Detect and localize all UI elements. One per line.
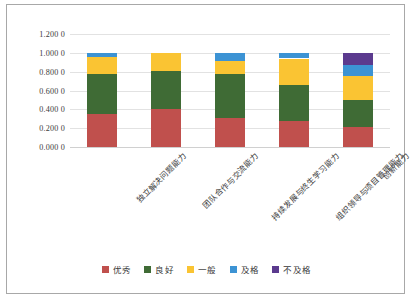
legend-label: 及格 [241, 263, 260, 275]
bar-segment[interactable] [343, 76, 373, 100]
legend-label: 优秀 [113, 263, 132, 275]
legend-swatch-icon [230, 266, 237, 273]
legend-item[interactable]: 良好 [144, 263, 174, 275]
bar-segment[interactable] [151, 53, 181, 71]
y-axis-tick-label: 0.200 0 [39, 124, 65, 133]
y-axis-tick-label: 0.800 0 [39, 67, 65, 76]
x-axis-tick-label: 团队合作与交流能力 [200, 150, 261, 211]
y-axis-tick-label: 1.000 0 [39, 48, 65, 57]
bar-column[interactable] [151, 34, 181, 147]
bar-column[interactable] [343, 34, 373, 147]
x-axis-tick-label: 持续发展与终生学习能力 [269, 150, 341, 222]
bar-segment[interactable] [215, 61, 245, 74]
bar-column[interactable] [87, 34, 117, 147]
chart-legend: 优秀良好一般及格不及格 [7, 263, 406, 275]
bar-segment[interactable] [343, 53, 373, 65]
bar-segment[interactable] [343, 100, 373, 127]
bar-stack [87, 53, 117, 147]
legend-item[interactable]: 一般 [187, 263, 217, 275]
bar-segment[interactable] [279, 53, 309, 59]
bar-segment[interactable] [215, 53, 245, 61]
bar-stack [343, 53, 373, 147]
legend-swatch-icon [187, 266, 194, 273]
bar-segment[interactable] [343, 65, 373, 77]
bar-segment[interactable] [279, 59, 309, 86]
y-axis-tick-label: 0.600 0 [39, 86, 65, 95]
legend-label: 良好 [155, 263, 174, 275]
bar-column[interactable] [215, 34, 245, 147]
bar-segment[interactable] [215, 74, 245, 118]
bar-segment[interactable] [215, 118, 245, 147]
bar-column[interactable] [279, 34, 309, 147]
y-axis-tick-label: 0.400 0 [39, 105, 65, 114]
legend-label: 不及格 [283, 263, 311, 275]
legend-swatch-icon [272, 266, 279, 273]
legend-item[interactable]: 不及格 [272, 263, 311, 275]
bar-segment[interactable] [87, 57, 117, 74]
x-axis: 独立解决问题能力团队合作与交流能力持续发展与终生学习能力组织领导与项目管理能力创… [70, 148, 390, 260]
bar-stack [151, 53, 181, 147]
x-axis-tick-label: 独立解决问题能力 [133, 150, 188, 205]
legend-item[interactable]: 优秀 [102, 263, 132, 275]
bar-segment[interactable] [151, 71, 181, 109]
bar-segment[interactable] [87, 114, 117, 147]
y-axis-tick-label: 1.200 0 [39, 30, 65, 39]
y-axis-tick-label: 0.000 0 [39, 143, 65, 152]
legend-item[interactable]: 及格 [230, 263, 260, 275]
bar-stack [279, 53, 309, 147]
bar-segment[interactable] [343, 127, 373, 147]
bar-segment[interactable] [87, 74, 117, 114]
bar-segment[interactable] [87, 53, 117, 57]
bar-segment[interactable] [151, 109, 181, 147]
plot-area [70, 34, 390, 147]
y-axis: 1.200 01.000 00.800 00.600 00.400 00.200… [17, 34, 65, 147]
legend-label: 一般 [198, 263, 217, 275]
bar-segment[interactable] [279, 121, 309, 147]
bar-stack [215, 53, 245, 147]
bar-segment[interactable] [279, 85, 309, 121]
chart-frame: 1.200 01.000 00.800 00.600 00.400 00.200… [6, 4, 405, 294]
legend-swatch-icon [144, 266, 151, 273]
legend-swatch-icon [102, 266, 109, 273]
